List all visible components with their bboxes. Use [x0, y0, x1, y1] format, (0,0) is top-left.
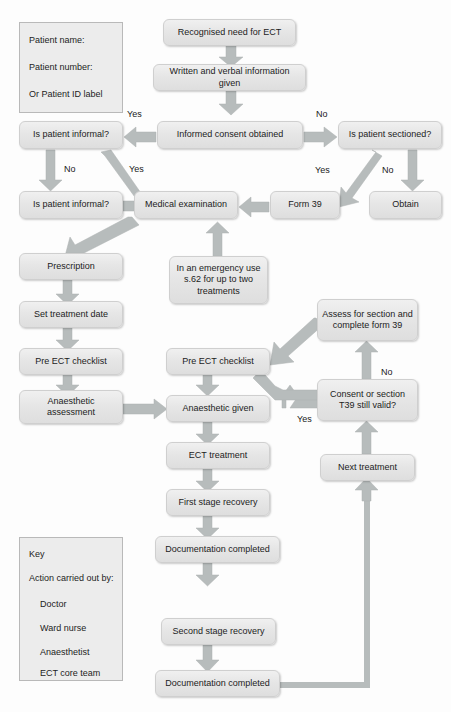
arrow-doc1-to-second-recovery	[196, 561, 220, 587]
node-pre-ect-checklist-mid[interactable]: Pre ECT checklist	[166, 348, 270, 375]
arrow-second-recovery-to-doc2	[196, 645, 220, 673]
patient-id-label: Or Patient ID label	[29, 89, 103, 100]
node-is-patient-informal-1[interactable]: Is patient informal?	[19, 121, 123, 149]
arrow-midchecklist-to-given	[196, 373, 220, 397]
node-is-patient-informal-2[interactable]: Is patient informal?	[19, 191, 123, 219]
node-first-stage-recovery[interactable]: First stage recovery	[166, 489, 270, 516]
label-sectioned-no: No	[382, 165, 394, 175]
node-anaesthetic-given[interactable]: Anaesthetic given	[166, 395, 270, 422]
node-prescription[interactable]: Prescription	[19, 253, 123, 280]
key-item-ect-core-team: ECT core team	[40, 668, 100, 679]
arrow-informal1-to-informal2	[39, 150, 63, 192]
flowchart-canvas: Patient name: Patient number: Or Patient…	[0, 0, 451, 712]
arrow-consent-to-informal	[123, 126, 157, 148]
key-subtitle: Action carried out by:	[29, 573, 114, 584]
node-written-and-verbal-information-given[interactable]: Written and verbal information given	[153, 64, 306, 91]
node-documentation-completed-1[interactable]: Documentation completed	[155, 536, 280, 563]
label-valid-no: No	[381, 367, 393, 377]
label-valid-yes: Yes	[297, 414, 312, 424]
label-consent-yes: Yes	[127, 109, 142, 119]
arrow-sectioned-to-obtain	[401, 150, 425, 192]
arrow-form39-to-medical	[238, 196, 270, 218]
node-is-patient-sectioned[interactable]: Is patient sectioned?	[338, 121, 442, 149]
label-sectioned-yes: Yes	[315, 165, 330, 175]
feedback-line-vertical	[364, 496, 370, 686]
arrow-consent-to-sectioned	[303, 126, 338, 148]
arrow-feedback-to-next-treatment	[355, 478, 379, 502]
key-item-doctor: Doctor	[40, 599, 67, 610]
node-form-39[interactable]: Form 39	[270, 191, 340, 219]
arrow-consentvalid-to-assess	[355, 341, 379, 381]
node-informed-consent-obtained[interactable]: Informed consent obtained	[157, 121, 303, 149]
arrow-emergency-to-medical	[206, 222, 230, 258]
node-recognised-need-for-ect[interactable]: Recognised need for ECT	[163, 19, 296, 46]
key-legend-panel: Key Action carried out by: Doctor Ward n…	[19, 537, 123, 681]
node-ect-treatment[interactable]: ECT treatment	[166, 442, 270, 469]
node-obtain[interactable]: Obtain	[369, 191, 442, 219]
patient-number-label: Patient number:	[29, 62, 93, 73]
node-medical-examination[interactable]: Medical examination	[134, 191, 238, 219]
key-item-anaesthetist: Anaesthetist	[40, 647, 90, 658]
label-informal-yes: Yes	[129, 164, 144, 174]
node-consent-or-section-valid[interactable]: Consent or section T39 still valid?	[317, 379, 418, 421]
node-next-treatment[interactable]: Next treatment	[320, 454, 415, 481]
node-documentation-completed-2[interactable]: Documentation completed	[155, 670, 280, 697]
arrow-assessment-to-given	[122, 398, 168, 420]
node-set-treatment-date[interactable]: Set treatment date	[19, 301, 123, 328]
node-emergency-s62[interactable]: In an emergency use s.62 for up to two t…	[169, 256, 268, 304]
node-assess-for-section[interactable]: Assess for section and complete form 39	[317, 299, 418, 341]
key-item-ward-nurse: Ward nurse	[40, 623, 86, 634]
node-second-stage-recovery[interactable]: Second stage recovery	[161, 618, 276, 645]
arrow-written-to-consent	[218, 90, 244, 116]
key-title: Key	[29, 549, 45, 560]
patient-name-label: Patient name:	[29, 35, 85, 46]
label-informal-no: No	[64, 164, 76, 174]
node-anaesthetic-assessment[interactable]: Anaesthetic assessment	[19, 390, 123, 424]
feedback-line-horizontal	[278, 682, 370, 688]
patient-details-panel: Patient name: Patient number: Or Patient…	[19, 22, 123, 113]
arrow-next-to-consent-valid	[355, 421, 379, 455]
node-pre-ect-checklist-left[interactable]: Pre ECT checklist	[19, 348, 123, 375]
label-consent-no: No	[316, 109, 328, 119]
